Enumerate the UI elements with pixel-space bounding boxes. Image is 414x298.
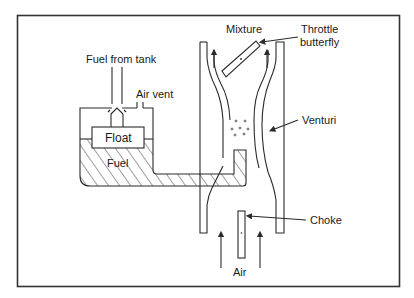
label-fuel-from-tank: Fuel from tank <box>86 53 157 65</box>
choke-plate <box>238 211 245 258</box>
label-mixture: Mixture <box>226 23 262 35</box>
venturi-leader <box>272 120 298 130</box>
choke-leader <box>249 216 306 220</box>
label-throttle-line2: butterfly <box>300 36 340 48</box>
diagram-frame <box>18 16 400 287</box>
label-throttle-line1: Throttle <box>301 23 338 35</box>
carburettor-diagram: Fuel from tank Air vent Float Fuel Mixtu… <box>0 0 414 298</box>
float-chamber <box>80 102 200 186</box>
label-venturi: Venturi <box>302 114 336 126</box>
label-float: Float <box>105 131 132 145</box>
label-air-vent: Air vent <box>136 88 173 100</box>
throttle-butterfly <box>222 41 260 77</box>
label-fuel: Fuel <box>107 157 128 169</box>
fuel-spray-dots <box>231 120 249 136</box>
throttle-leader <box>262 37 298 42</box>
fuel-inlet-pipe <box>108 67 126 127</box>
label-choke: Choke <box>310 214 342 226</box>
venturi-tube <box>200 42 284 233</box>
label-air: Air <box>233 266 247 278</box>
